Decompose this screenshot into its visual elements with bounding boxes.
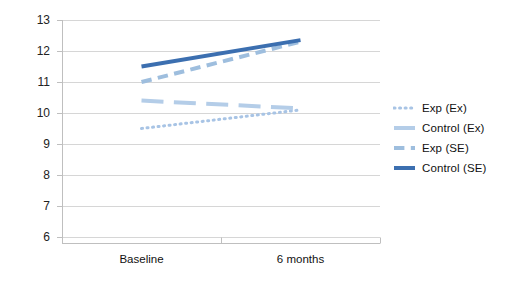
legend-swatch-control-se <box>393 162 416 174</box>
y-axis-tick-label: 12 <box>16 45 50 57</box>
series-line-control-ex <box>142 101 301 109</box>
legend-label-control-ex: Control (Ex) <box>422 122 485 134</box>
y-axis-tick-label: 7 <box>16 200 50 212</box>
x-axis-category-label: Baseline <box>62 254 221 266</box>
y-axis-tick-label: 13 <box>16 14 50 26</box>
series-lines-group <box>142 40 301 128</box>
legend-swatch-control-ex <box>393 122 416 134</box>
chart-legend: Exp (Ex) Control (Ex) Exp (SE) Control (… <box>393 98 511 178</box>
y-axis-tick-label: 11 <box>16 76 50 88</box>
series-line-exp-ex <box>142 110 301 129</box>
legend-swatch-exp-ex <box>393 102 416 114</box>
y-axis-tick-label: 6 <box>16 231 50 243</box>
legend-item-control-ex[interactable]: Control (Ex) <box>393 118 511 138</box>
y-axis-tick-label: 9 <box>16 138 50 150</box>
y-axis-tick-label: 10 <box>16 107 50 119</box>
x-axis-category-label: 6 months <box>221 254 380 266</box>
legend-label-exp-se: Exp (SE) <box>422 142 469 154</box>
legend-item-exp-ex[interactable]: Exp (Ex) <box>393 98 511 118</box>
y-axis-tick-label: 8 <box>16 169 50 181</box>
legend-label-exp-ex: Exp (Ex) <box>422 102 467 114</box>
legend-label-control-se: Control (SE) <box>422 162 486 174</box>
line-chart: 131211109876 Baseline6 months Exp (Ex) C… <box>0 0 511 285</box>
legend-item-exp-se[interactable]: Exp (SE) <box>393 138 511 158</box>
series-line-control-se <box>142 40 301 66</box>
legend-swatch-exp-se <box>393 142 416 154</box>
legend-item-control-se[interactable]: Control (SE) <box>393 158 511 178</box>
